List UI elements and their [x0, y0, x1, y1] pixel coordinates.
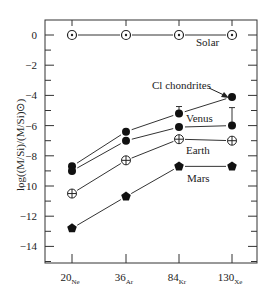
- y-tick-label: 0: [32, 29, 38, 41]
- series-line: [132, 129, 173, 140]
- y-axis: 0−2−4−6−8−10−12−14: [20, 29, 257, 262]
- label-mars: Mars: [187, 172, 210, 184]
- solar-marker-dot: [178, 34, 180, 36]
- y-tick-label: −14: [20, 240, 38, 252]
- label-solar: Solar: [196, 36, 220, 48]
- filled-circle-marker: [228, 122, 236, 130]
- y-tick-label: −8: [25, 150, 37, 162]
- y-tick-label: −2: [25, 59, 37, 71]
- series-line: [131, 169, 174, 193]
- label-arrow-head: [221, 92, 229, 98]
- series-line: [77, 144, 121, 168]
- series-line: [185, 99, 227, 112]
- noble-gas-abundance-chart: 0−2−4−6−8−10−12−14 20Ne36Ar84Kr130Xe Sol…: [0, 0, 273, 288]
- series-line: [77, 135, 121, 163]
- pentagon-marker: [121, 192, 131, 201]
- filled-circle-marker: [175, 123, 183, 131]
- plot-border: [45, 20, 257, 263]
- y-tick-label: −6: [25, 120, 37, 132]
- pentagon-marker: [67, 223, 77, 232]
- filled-circle-marker: [175, 110, 183, 118]
- filled-circle-marker: [122, 128, 130, 136]
- solar-marker-dot: [231, 34, 233, 36]
- pentagon-marker: [227, 161, 237, 170]
- y-axis-label: log((M/Si)/(M/Si)⊙): [14, 99, 27, 191]
- x-tick-label: 130Xe: [218, 271, 243, 286]
- x-tick-label: 36Ar: [115, 271, 134, 286]
- x-axis: 20Ne36Ar84Kr130Xe: [60, 20, 242, 286]
- x-tick-label: 84Kr: [168, 271, 187, 286]
- series-line: [132, 141, 174, 158]
- label-cl-chondrites: Cl chondrites: [152, 79, 211, 91]
- label-venus: Venus: [186, 112, 213, 124]
- y-tick-label: −4: [25, 89, 37, 101]
- series-line: [185, 139, 226, 140]
- series-line: [132, 115, 174, 129]
- series-line: [185, 126, 226, 127]
- plot-frame: [45, 20, 257, 263]
- filled-circle-marker: [228, 93, 236, 101]
- series-mars: [67, 161, 237, 232]
- data-series: [67, 31, 237, 233]
- filled-circle-marker: [68, 167, 76, 175]
- label-earth: Earth: [186, 144, 210, 156]
- solar-marker-dot: [125, 34, 127, 36]
- series-line: [77, 163, 121, 190]
- filled-circle-marker: [122, 137, 130, 145]
- series-line: [77, 200, 121, 226]
- pentagon-marker: [174, 161, 184, 170]
- solar-marker-dot: [71, 34, 73, 36]
- y-tick-label: −12: [20, 210, 37, 222]
- x-tick-label: 20Ne: [60, 271, 79, 286]
